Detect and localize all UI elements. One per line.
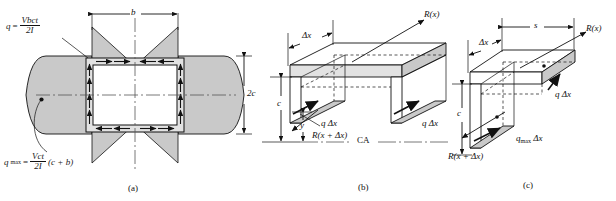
panel-c-dimension-c: c xyxy=(457,109,461,118)
panel-a-dimension-2c: 2c xyxy=(247,89,256,98)
panel-c-label-delta-x: Δx xyxy=(479,38,488,47)
panel-a-graphics xyxy=(26,13,252,172)
panel-b-label-centroidal-axis: CA xyxy=(357,136,370,145)
panel-c-label-R-x-plus-delta-x: R(x + Δx) xyxy=(448,152,483,161)
equation-q-denominator: 2I xyxy=(20,26,41,35)
equation-qmax-subscript: max xyxy=(11,159,22,165)
panel-b-dimension-y: y xyxy=(300,121,304,130)
panel-a-equation-qmax: qmax = Vct 2I (c + b) xyxy=(4,152,73,172)
panel-b-caption: (b) xyxy=(358,182,369,192)
equation-q-equals: = xyxy=(13,21,18,31)
panel-c-qmax-subscript: max xyxy=(521,138,532,144)
panel-b-label-q-delta-x-right: q Δx xyxy=(422,119,438,128)
panel-c-dimension-s: s xyxy=(534,21,538,30)
panel-c-label-q-delta-x: q Δx xyxy=(555,90,571,99)
panel-c-qmax-tail: Δx xyxy=(533,133,542,143)
figure-shear-flow: q = Vbct 2I qmax = Vct 2I (c + b) b 2c (… xyxy=(0,0,616,201)
equation-q-lhs: q xyxy=(6,21,11,31)
panel-b-dimension-c: c xyxy=(277,99,281,108)
panel-c-caption: (c) xyxy=(523,180,533,190)
panel-b-label-R-x: R(x) xyxy=(424,10,440,19)
equation-qmax-denominator: 2I xyxy=(30,162,46,171)
panel-b-label-delta-x: Δx xyxy=(302,31,311,40)
panel-a-equation-q: q = Vbct 2I xyxy=(6,16,40,36)
equation-qmax-lhs: q xyxy=(4,157,9,167)
panel-b-graphics xyxy=(262,20,448,142)
panel-a-caption: (a) xyxy=(128,183,138,193)
panel-c-label-qmax-delta-x: qmax Δx xyxy=(516,134,543,144)
panel-b-label-q-delta-x: q Δx xyxy=(321,119,337,128)
equation-qmax-equals: = xyxy=(23,157,28,167)
panel-c-label-R-x: R(x) xyxy=(586,24,602,33)
panel-b-label-R-x-plus-delta-x: R(x + Δx) xyxy=(312,131,347,140)
equation-qmax-tail: (c + b) xyxy=(48,157,73,167)
panel-a-dimension-b: b xyxy=(131,8,136,17)
